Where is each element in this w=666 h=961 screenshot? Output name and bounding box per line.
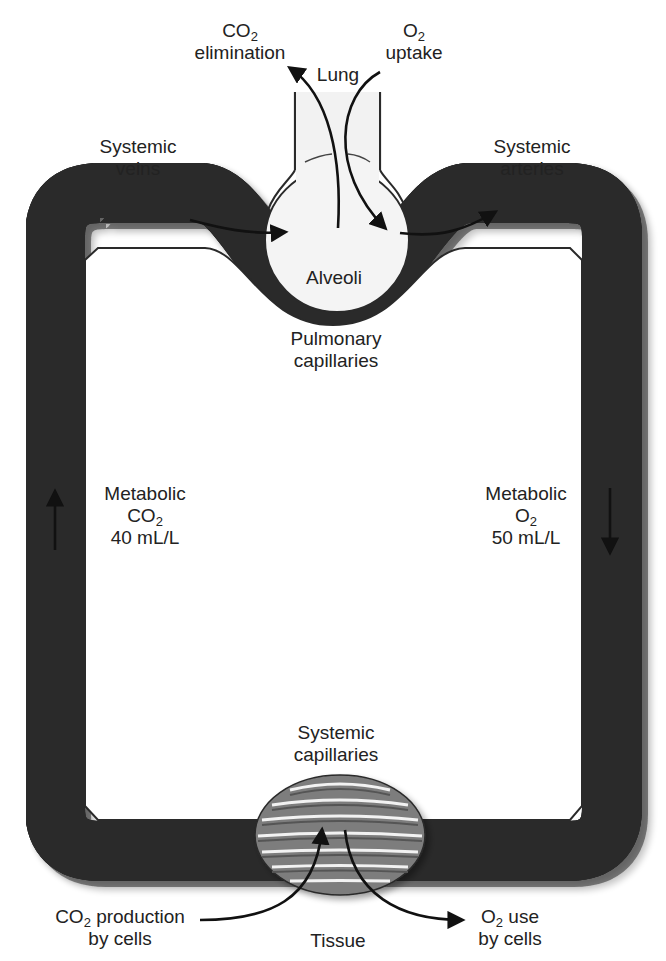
o2-uptake-label: O2 uptake: [385, 20, 442, 64]
systemic-arteries-label: Systemic arteries: [493, 136, 570, 180]
systemic-capillary-bed: [255, 775, 425, 895]
tissue-label: Tissue: [310, 930, 365, 952]
pulmonary-capillaries-label: Pulmonary capillaries: [291, 328, 382, 372]
lung-label: Lung: [317, 64, 359, 86]
metabolic-o2-label: Metabolic O2 50 mL/L: [485, 483, 566, 549]
systemic-veins-label: Systemic veins: [99, 136, 176, 180]
alveoli-label: Alveoli: [306, 267, 362, 289]
systemic-capillaries-label: Systemic capillaries: [294, 722, 378, 766]
co2-production-label: CO2 production by cells: [55, 906, 185, 950]
co2-elimination-label: CO2 elimination: [195, 20, 286, 64]
metabolic-co2-label: Metabolic CO2 40 mL/L: [104, 483, 185, 549]
o2-use-label: O2 use by cells: [478, 906, 541, 950]
